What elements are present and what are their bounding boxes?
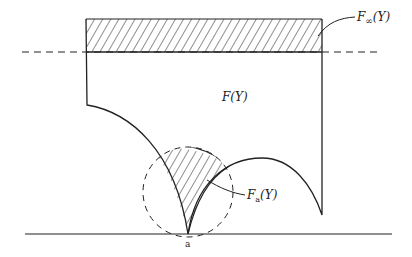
f-infinity-region [86,19,322,52]
f-main-label: F(Y) [221,90,248,104]
f-a-label: Fa(Y) [246,188,278,204]
f-a-leader [207,180,245,195]
f-infinity-leader [318,17,355,36]
f-infinity-label: F∞(Y) [356,10,390,26]
f-a-region [153,148,228,234]
point-a-label: a [185,239,191,249]
diagram-canvas: F∞(Y) F(Y) Fa(Y) a [0,0,412,257]
